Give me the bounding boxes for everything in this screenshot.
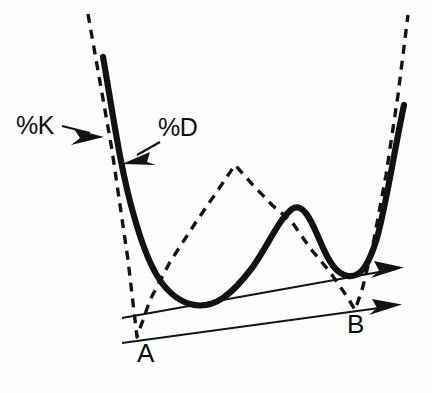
point-b-label: B bbox=[347, 309, 364, 339]
d-callout-leader bbox=[122, 142, 160, 165]
stochastic-divergence-diagram: %K %D A B bbox=[0, 0, 432, 393]
point-a-label: A bbox=[137, 338, 155, 368]
k-series-label: %K bbox=[16, 111, 55, 139]
diagram-canvas: %K %D A B bbox=[0, 0, 432, 393]
d-series-curve bbox=[103, 57, 404, 306]
k-series-curve bbox=[88, 14, 408, 337]
trendline-lower-tip-arrow-right-icon bbox=[369, 299, 402, 315]
trendline-upper-tip-arrow-right-icon bbox=[371, 261, 404, 278]
k-callout-leader bbox=[62, 126, 104, 145]
d-series-label: %D bbox=[158, 113, 197, 141]
